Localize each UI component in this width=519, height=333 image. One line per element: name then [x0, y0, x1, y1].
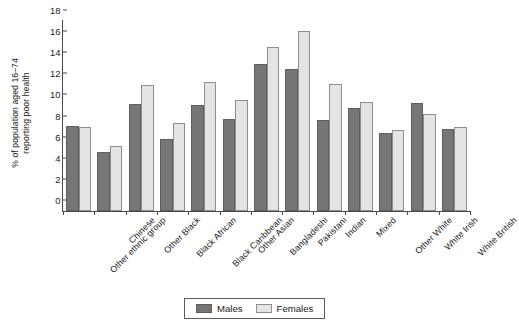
bar-males: [442, 129, 455, 211]
legend-swatch-females: [256, 304, 272, 313]
bar-group: [157, 21, 188, 211]
legend-item-males: Males: [196, 303, 243, 314]
x-axis-label: Other ethnic group: [107, 215, 167, 275]
bar-group: [251, 21, 282, 211]
y-axis-tick-label: 14: [50, 47, 63, 58]
y-axis-tick: 14: [50, 47, 63, 58]
bar-group: [376, 21, 407, 211]
bar-females: [392, 130, 405, 211]
legend-label-males: Males: [217, 303, 243, 314]
bar-females: [298, 31, 311, 212]
y-axis-tick: 8: [55, 110, 63, 121]
bar-females: [235, 100, 248, 211]
bar-males: [348, 108, 361, 211]
bar-males: [160, 139, 173, 211]
bar-females: [79, 127, 92, 211]
y-axis-tick-label: 12: [50, 68, 63, 79]
bar-males: [411, 103, 424, 211]
y-axis-title-wrapper: % of population aged 16–74 reporting poo…: [0, 0, 40, 215]
bar-males: [191, 105, 204, 211]
bar-females: [141, 85, 154, 211]
y-axis-tick-label: 6: [55, 131, 63, 142]
y-axis-tick: 12: [50, 68, 63, 79]
x-axis-label: Indian: [343, 215, 367, 239]
y-axis-tick: 18: [50, 5, 63, 16]
bar-group: [345, 21, 376, 211]
bar-males: [285, 69, 298, 212]
bar-males: [66, 126, 79, 212]
y-axis-tick: 6: [55, 131, 63, 142]
bar-males: [379, 133, 392, 211]
x-axis-label: White British: [476, 215, 519, 258]
x-axis-tick-mark: [470, 211, 471, 215]
legend-label-females: Females: [277, 303, 314, 314]
bar-females: [360, 102, 373, 211]
y-axis-tick: 10: [50, 89, 63, 100]
bar-females: [423, 114, 436, 211]
bar-group: [220, 21, 251, 211]
legend-item-females: Females: [256, 303, 314, 314]
legend-swatch-males: [196, 304, 212, 313]
y-axis-tick: 4: [55, 152, 63, 163]
y-axis-tick-label: 4: [55, 152, 63, 163]
bar-males: [97, 152, 110, 211]
y-axis-tick-label: 10: [50, 89, 63, 100]
y-axis-tick-label: 16: [50, 26, 63, 37]
bar-females: [204, 82, 217, 211]
bar-group: [126, 21, 157, 211]
y-axis-tick: 2: [55, 173, 63, 184]
bar-females: [454, 127, 467, 211]
bar-females: [173, 123, 186, 211]
y-axis-tick-label: 18: [50, 5, 63, 16]
bar-males: [129, 104, 142, 211]
x-axis-labels: Other ethnic groupChineseOther BlackBlac…: [63, 212, 470, 292]
bar-group: [94, 21, 125, 211]
y-axis-tick-label: 8: [55, 110, 63, 121]
y-axis-tick: 0: [55, 195, 63, 206]
chart-legend: Males Females: [184, 298, 325, 319]
x-axis-label: Mixed: [374, 215, 398, 239]
y-axis-tick: 16: [50, 26, 63, 37]
bar-group: [439, 21, 470, 211]
bar-females: [110, 146, 123, 211]
y-axis-title: % of population aged 16–74 reporting poo…: [10, 15, 33, 211]
bar-group: [314, 21, 345, 211]
bar-group: [63, 21, 94, 211]
y-axis-tick-label: 0: [55, 195, 63, 206]
y-axis-tick-mark: [63, 10, 67, 11]
y-axis-tick-label: 2: [55, 173, 63, 184]
bar-females: [267, 47, 280, 211]
bar-males: [223, 119, 236, 211]
bar-group: [282, 21, 313, 211]
bar-males: [254, 64, 267, 211]
bar-group: [407, 21, 438, 211]
bar-groups: [63, 21, 470, 211]
bar-males: [317, 120, 330, 211]
bar-females: [329, 84, 342, 211]
plot-area: 024681012141618: [63, 21, 470, 211]
bar-group: [188, 21, 219, 211]
